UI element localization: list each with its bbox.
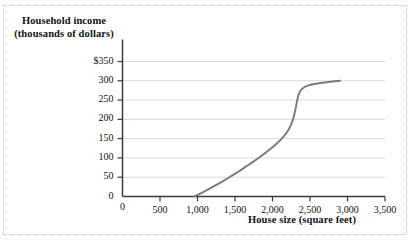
axis-lines	[123, 40, 386, 197]
y-tick-label: 150	[54, 132, 114, 143]
y-tick-label: 200	[54, 112, 114, 123]
y-tick-label: 250	[54, 93, 114, 104]
y-tick-label: 100	[54, 151, 114, 162]
y-tick-label: 50	[54, 170, 114, 181]
chart-figure: Household income (thousands of dollars) …	[0, 0, 413, 243]
y-tick-label: $350	[54, 55, 114, 66]
y-tick-label: 0	[54, 190, 114, 201]
y-tick-label: 300	[54, 74, 114, 85]
gridlines	[123, 62, 386, 178]
tick-marks	[118, 62, 386, 202]
x-tick-label: 3,500	[363, 204, 407, 215]
